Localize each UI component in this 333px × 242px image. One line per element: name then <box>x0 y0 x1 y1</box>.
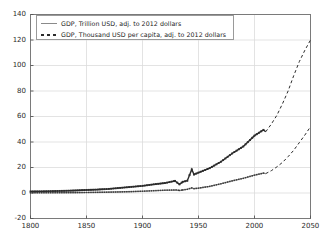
x-tick-label: 1900 <box>134 222 152 230</box>
x-tick-label: 2000 <box>246 222 264 230</box>
y-tick-label: 100 <box>2 61 26 69</box>
x-tick-label: 1800 <box>22 222 40 230</box>
x-tick-label: 2050 <box>302 222 320 230</box>
y-tick-label: 0 <box>2 189 26 197</box>
legend-entry-gdp-per-capita: GDP, Thousand USD per capita, adj. to 20… <box>40 29 230 40</box>
chart-figure: GDP, Trillion USD, adj. to 2012 dollars … <box>0 0 333 242</box>
y-tick-label: 60 <box>2 112 26 120</box>
legend-line-icon <box>40 19 58 29</box>
legend-entry-gdp-trillion: GDP, Trillion USD, adj. to 2012 dollars <box>40 18 230 29</box>
x-tick-label: 1950 <box>190 222 208 230</box>
y-tick-label: 140 <box>2 10 26 18</box>
legend-label-gdp-trillion: GDP, Trillion USD, adj. to 2012 dollars <box>61 19 181 29</box>
y-tick-label: 20 <box>2 163 26 171</box>
legend-label-gdp-per-capita: GDP, Thousand USD per capita, adj. to 20… <box>61 30 226 40</box>
y-tick-label: 120 <box>2 36 26 44</box>
y-tick-label: 80 <box>2 87 26 95</box>
chart-legend: GDP, Trillion USD, adj. to 2012 dollars … <box>36 15 234 40</box>
legend-dashed-icon <box>40 30 58 40</box>
y-tick-label: 40 <box>2 138 26 146</box>
x-tick-label: 1850 <box>78 222 96 230</box>
grid-lines <box>31 15 311 219</box>
